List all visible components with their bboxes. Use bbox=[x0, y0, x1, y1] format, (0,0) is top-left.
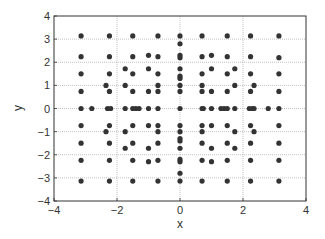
data-point bbox=[199, 89, 204, 94]
data-point bbox=[130, 123, 135, 128]
data-point bbox=[177, 66, 182, 71]
data-point bbox=[209, 89, 214, 94]
data-point bbox=[103, 83, 108, 88]
data-point bbox=[108, 106, 113, 111]
data-point bbox=[209, 123, 214, 128]
data-point bbox=[248, 33, 253, 38]
data-point bbox=[155, 129, 160, 134]
data-point bbox=[276, 123, 281, 128]
data-point bbox=[232, 129, 237, 134]
data-point bbox=[276, 89, 281, 94]
data-point bbox=[146, 146, 151, 151]
y-tick-label: 2 bbox=[44, 56, 50, 68]
data-point bbox=[146, 106, 151, 111]
data-point bbox=[251, 129, 256, 134]
data-point bbox=[177, 157, 182, 162]
data-point bbox=[130, 89, 135, 94]
data-point bbox=[177, 83, 182, 88]
data-point bbox=[103, 129, 108, 134]
data-point bbox=[225, 141, 230, 146]
data-point bbox=[225, 179, 230, 184]
data-point bbox=[78, 141, 83, 146]
data-point bbox=[136, 106, 141, 111]
data-points bbox=[78, 33, 281, 183]
data-point bbox=[78, 179, 83, 184]
data-point bbox=[177, 123, 182, 128]
data-point bbox=[232, 66, 237, 71]
data-point bbox=[276, 71, 281, 76]
data-point bbox=[155, 33, 160, 38]
data-point bbox=[248, 158, 253, 163]
data-point bbox=[276, 158, 281, 163]
data-point bbox=[123, 146, 128, 151]
data-point bbox=[225, 33, 230, 38]
data-point bbox=[199, 179, 204, 184]
data-point bbox=[123, 66, 128, 71]
data-point bbox=[276, 179, 281, 184]
data-point bbox=[177, 136, 182, 141]
data-point bbox=[155, 158, 160, 163]
data-point bbox=[155, 141, 160, 146]
data-point bbox=[225, 158, 230, 163]
data-point bbox=[177, 171, 182, 176]
data-point bbox=[248, 71, 253, 76]
data-point bbox=[107, 33, 112, 38]
data-point bbox=[130, 33, 135, 38]
data-point bbox=[130, 141, 135, 146]
data-point bbox=[177, 129, 182, 134]
data-point bbox=[130, 71, 135, 76]
data-point bbox=[146, 89, 151, 94]
data-point bbox=[146, 66, 151, 71]
data-point bbox=[78, 123, 83, 128]
data-point bbox=[78, 106, 83, 111]
data-point bbox=[199, 129, 204, 134]
data-point bbox=[155, 71, 160, 76]
data-point bbox=[123, 106, 128, 111]
data-point bbox=[89, 106, 94, 111]
data-point bbox=[123, 129, 128, 134]
data-point bbox=[209, 66, 214, 71]
y-tick-label: 1 bbox=[44, 79, 50, 91]
data-point bbox=[209, 146, 214, 151]
data-point bbox=[177, 146, 182, 151]
y-tick-label: −1 bbox=[37, 126, 50, 138]
data-point bbox=[248, 141, 253, 146]
data-point bbox=[155, 89, 160, 94]
data-point bbox=[107, 71, 112, 76]
data-point bbox=[107, 123, 112, 128]
data-point bbox=[232, 83, 237, 88]
data-point bbox=[225, 106, 230, 111]
data-point bbox=[209, 159, 214, 164]
y-tick-label: 0 bbox=[44, 103, 50, 115]
x-tick-label: 2 bbox=[240, 204, 246, 216]
data-point bbox=[225, 71, 230, 76]
data-point bbox=[199, 83, 204, 88]
y-tick-label: 4 bbox=[44, 10, 50, 22]
data-point bbox=[177, 33, 182, 38]
data-point bbox=[123, 83, 128, 88]
data-point bbox=[232, 106, 237, 111]
data-point bbox=[209, 106, 214, 111]
data-point bbox=[199, 141, 204, 146]
data-point bbox=[155, 106, 160, 111]
data-point bbox=[276, 141, 281, 146]
y-axis-label: y bbox=[11, 105, 25, 111]
data-point bbox=[78, 158, 83, 163]
data-point bbox=[78, 71, 83, 76]
data-point bbox=[155, 54, 160, 59]
x-tick-label: −2 bbox=[111, 204, 124, 216]
data-point bbox=[177, 41, 182, 46]
data-point bbox=[78, 54, 83, 59]
data-point bbox=[177, 76, 182, 81]
data-point bbox=[177, 179, 182, 184]
data-point bbox=[107, 179, 112, 184]
data-point bbox=[199, 71, 204, 76]
data-point bbox=[276, 106, 281, 111]
data-point bbox=[130, 54, 135, 59]
data-point bbox=[248, 54, 253, 59]
data-point bbox=[107, 89, 112, 94]
data-point bbox=[130, 158, 135, 163]
data-point bbox=[155, 179, 160, 184]
data-point bbox=[146, 159, 151, 164]
data-point bbox=[276, 33, 281, 38]
